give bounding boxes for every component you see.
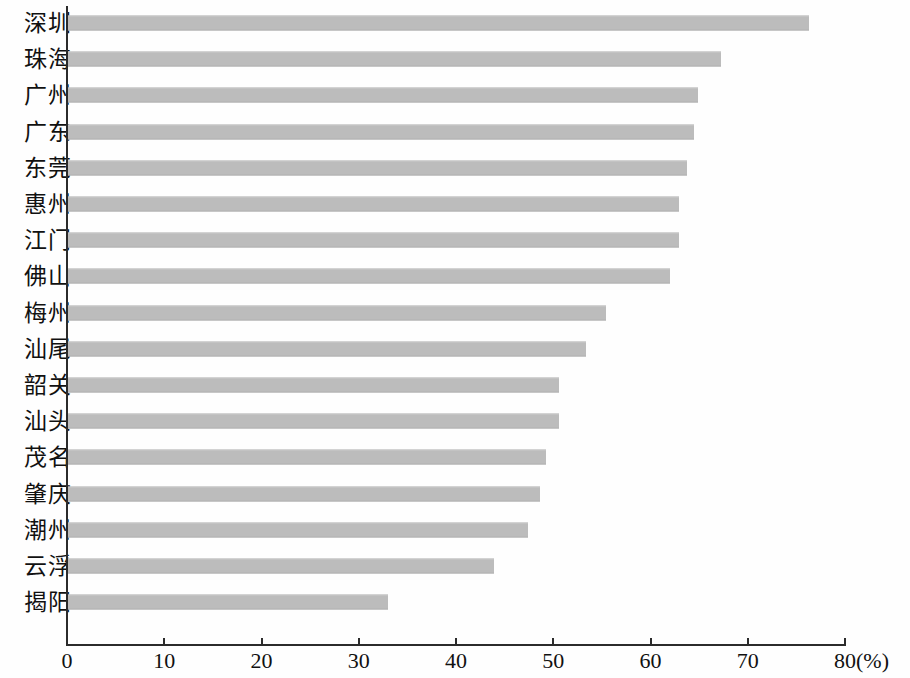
y-axis-line [66, 6, 68, 645]
bar-category-label: 汕尾 [24, 337, 72, 360]
x-axis-tick-mark [552, 638, 554, 646]
x-axis-tick-mark [455, 638, 457, 646]
x-axis-tick-mark [358, 638, 360, 646]
bar-category-label: 云浮 [24, 555, 72, 578]
bar-category-label: 韶关 [24, 374, 72, 397]
x-axis-tick-mark [747, 638, 749, 646]
x-axis-tick-mark [650, 638, 652, 646]
bar-category-label: 梅州 [24, 301, 72, 324]
bar [68, 88, 698, 103]
bar-row: 广东 [0, 114, 910, 150]
bar-row: 广州 [0, 77, 910, 113]
bar [68, 522, 528, 537]
x-axis-tick-label: 0 [62, 650, 73, 672]
bar [68, 414, 559, 429]
x-axis-tick-label: 10 [153, 650, 175, 672]
x-axis-tick-label: 40 [445, 650, 467, 672]
plot-area: 深圳珠海广州广东东莞惠州江门佛山梅州汕尾韶关汕头茂名肇庆潮州云浮揭阳 01020… [0, 0, 910, 678]
bar-row: 韶关 [0, 367, 910, 403]
bar-row: 江门 [0, 222, 910, 258]
bar-row: 珠海 [0, 41, 910, 77]
x-axis-tick-label: 20 [251, 650, 273, 672]
x-axis-tick-mark [163, 638, 165, 646]
bar [68, 233, 679, 248]
x-axis-tick-label: 30 [348, 650, 370, 672]
bar [68, 160, 687, 175]
bar-category-label: 东莞 [24, 156, 72, 179]
bar-row: 茂名 [0, 439, 910, 475]
bars-layer: 深圳珠海广州广东东莞惠州江门佛山梅州汕尾韶关汕头茂名肇庆潮州云浮揭阳 [0, 0, 910, 645]
bar-category-label: 广东 [24, 120, 72, 143]
bar [68, 16, 809, 31]
bar [68, 486, 540, 501]
bar-category-label: 惠州 [24, 193, 72, 216]
bar-category-label: 珠海 [24, 48, 72, 71]
bar-row: 云浮 [0, 548, 910, 584]
bar-row: 潮州 [0, 512, 910, 548]
x-axis-tick-mark [261, 638, 263, 646]
bar [68, 269, 670, 284]
bar-category-label: 潮州 [24, 518, 72, 541]
bar-category-label: 江门 [24, 229, 72, 252]
x-axis-tick-label: 50 [542, 650, 564, 672]
bar [68, 305, 606, 320]
bar-row: 肇庆 [0, 476, 910, 512]
bar [68, 197, 679, 212]
bar-row: 汕头 [0, 403, 910, 439]
bar-row: 汕尾 [0, 331, 910, 367]
bar-category-label: 肇庆 [24, 482, 72, 505]
bar-row: 东莞 [0, 150, 910, 186]
bar-category-label: 佛山 [24, 265, 72, 288]
bar [68, 450, 546, 465]
bar-row: 佛山 [0, 258, 910, 294]
bar [68, 341, 586, 356]
x-axis-tick-label: 70 [737, 650, 759, 672]
bar [68, 52, 721, 67]
bar-row: 梅州 [0, 295, 910, 331]
bar [68, 559, 494, 574]
bar-chart: 深圳珠海广州广东东莞惠州江门佛山梅州汕尾韶关汕头茂名肇庆潮州云浮揭阳 01020… [0, 0, 910, 678]
x-axis-tick-label: 80 [834, 650, 856, 672]
bar [68, 378, 559, 393]
bar-row: 惠州 [0, 186, 910, 222]
x-axis-unit-label: (%) [856, 650, 889, 672]
x-axis-tick-label: 60 [640, 650, 662, 672]
x-axis-tick-mark [844, 638, 846, 646]
bar-category-label: 广州 [24, 84, 72, 107]
bar [68, 124, 694, 139]
bar-category-label: 深圳 [24, 12, 72, 35]
bar-category-label: 揭阳 [24, 591, 72, 614]
bar [68, 595, 388, 610]
bar-category-label: 茂名 [24, 446, 72, 469]
bar-category-label: 汕头 [24, 410, 72, 433]
bar-row: 深圳 [0, 5, 910, 41]
bar-row: 揭阳 [0, 584, 910, 620]
